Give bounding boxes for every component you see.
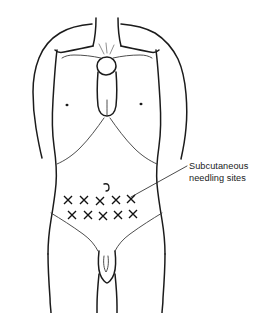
needling-site-mark [114, 211, 122, 219]
needling-site-mark [84, 211, 92, 219]
anatomy-diagram: Subcutaneous needling sites [0, 0, 266, 313]
neck-left-outline [93, 18, 96, 46]
thigh-right-outer [162, 254, 165, 313]
torso-left-flank [48, 50, 57, 254]
needling-site-mark [80, 196, 88, 204]
illustration-figure: Subcutaneous needling sites [0, 0, 266, 313]
needling-site-mark [99, 212, 107, 220]
needling-site-mark [68, 211, 76, 219]
genitalia-detail [104, 256, 109, 272]
clavicle-right [113, 55, 152, 58]
nipple-right [140, 103, 143, 105]
sternum-outline [97, 57, 116, 75]
needling-site-mark [129, 210, 137, 218]
sternal-notch-crease-3 [110, 45, 114, 54]
torso-right-flank [156, 50, 165, 254]
nipple-left [66, 104, 69, 106]
shoulder-slope-left [55, 46, 93, 52]
arm-right-outline [121, 24, 187, 159]
thigh-right-inner [115, 274, 117, 313]
callout-label-line2: needling sites [189, 173, 246, 183]
arm-left-outline [33, 24, 92, 158]
thigh-left-inner [97, 274, 99, 313]
sternal-notch-crease-1 [99, 44, 104, 54]
neck-right-outline [118, 18, 121, 46]
costal-margin-left [57, 118, 104, 164]
needling-site-mark [96, 197, 104, 205]
sternal-notch-crease-2 [106, 43, 107, 53]
shoulder-slope-right [121, 46, 159, 52]
clavicle-left [62, 55, 101, 58]
needling-site-row-1 [64, 195, 135, 205]
needling-site-mark [64, 196, 72, 204]
needling-site-mark [127, 195, 135, 203]
needling-site-row-2 [68, 210, 137, 220]
thigh-left-outer [48, 254, 51, 313]
genitalia-outline [98, 251, 115, 283]
navel-mark [104, 184, 109, 191]
costal-margin-right [110, 118, 157, 164]
needling-site-mark [112, 196, 120, 204]
callout-leader-line [131, 166, 187, 197]
callout-label-line1: Subcutaneous [189, 161, 249, 171]
